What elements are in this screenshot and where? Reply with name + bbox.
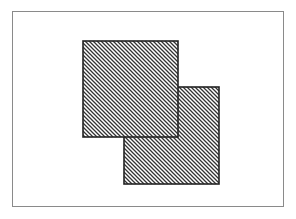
- square-front-hatch: [83, 41, 178, 137]
- overlapping-squares-diagram: [0, 0, 296, 219]
